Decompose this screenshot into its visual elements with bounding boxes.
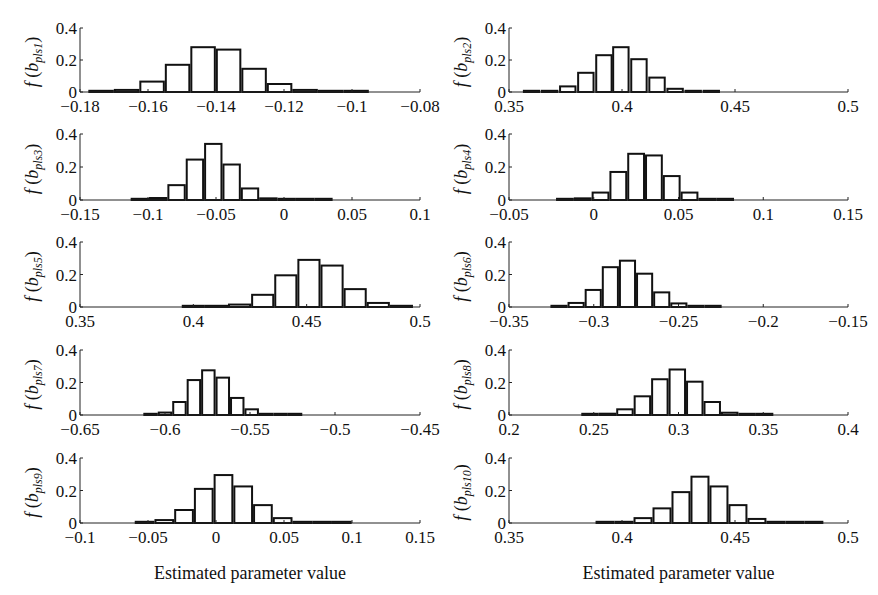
y-tick-label: 0.4	[485, 449, 507, 468]
histogram-bar	[635, 396, 650, 415]
histogram-bar	[217, 378, 229, 415]
x-tick-label: −0.5	[320, 420, 351, 439]
histogram-bar	[242, 69, 266, 92]
x-tick-label: 0.45	[292, 312, 322, 331]
histogram-bar	[603, 267, 618, 307]
x-tick-label: 0.05	[337, 205, 367, 224]
x-tick-label: 0.15	[833, 205, 863, 224]
y-axis-label: f (bpls10)	[451, 464, 474, 521]
histogram-bar	[202, 370, 214, 415]
y-axis-label: f (bpls4)	[451, 144, 474, 195]
histogram-bar	[610, 172, 626, 200]
x-tick-label: −0.65	[60, 420, 99, 439]
histogram-bar	[672, 492, 689, 523]
y-axis-label: f (bpls6)	[451, 251, 474, 302]
histogram-bar	[569, 303, 584, 307]
x-tick-label: 0.5	[837, 528, 858, 547]
x-tick-label: 0.35	[494, 97, 524, 116]
x-tick-label: −0.05	[196, 205, 235, 224]
histogram-bar	[234, 486, 252, 523]
histogram-bar	[254, 505, 272, 523]
histogram-bar	[682, 193, 698, 200]
y-tick-label: 0.2	[485, 374, 506, 393]
histogram-bar	[188, 380, 200, 415]
histogram-bar	[613, 47, 628, 92]
x-tick-label: 0.05	[664, 205, 694, 224]
histogram-bar	[252, 295, 273, 307]
y-tick-label: 0.2	[56, 266, 77, 285]
histogram-panel-4: 00.20.4−0.0500.050.10.15f (bpls4)	[451, 125, 863, 224]
histogram-bar	[140, 82, 164, 92]
histogram-bar	[205, 144, 221, 200]
y-axis-label: f (bpls7)	[22, 359, 45, 410]
histogram-bar	[560, 86, 575, 92]
histogram-panel-2: 00.20.40.350.40.450.5f (bpls2)	[451, 19, 859, 116]
x-tick-label: 0.35	[748, 420, 778, 439]
x-tick-label: 0.2	[498, 420, 519, 439]
y-tick-label: 0.2	[56, 482, 77, 501]
y-tick-label: 0.4	[56, 449, 78, 468]
histogram-bar	[578, 73, 593, 92]
histogram-panel-5: 00.20.40.350.40.450.5f (bpls5)	[22, 233, 431, 331]
y-axis-label: f (bpls5)	[22, 251, 45, 302]
histogram-bar	[687, 382, 702, 415]
y-tick-label: 0.2	[485, 51, 506, 70]
x-tick-label: −0.6	[150, 420, 181, 439]
histogram-bar	[321, 266, 342, 307]
x-tick-label: 0.5	[837, 97, 858, 116]
x-tick-label: −0.35	[489, 312, 528, 331]
histogram-bar	[637, 274, 652, 307]
y-tick-label: 0.4	[56, 341, 78, 360]
x-tick-label: 0.45	[720, 97, 750, 116]
histogram-bar	[748, 519, 765, 523]
y-tick-label: 0.4	[485, 233, 507, 252]
x-tick-label: −0.05	[489, 205, 528, 224]
y-tick-label: 0.2	[56, 374, 77, 393]
histogram-bar	[268, 84, 292, 92]
histogram-panel-10: 00.20.40.350.40.450.5f (bpls10)Estimated…	[451, 449, 859, 583]
x-tick-label: −0.45	[400, 420, 439, 439]
x-tick-label: 0	[280, 205, 289, 224]
y-tick-label: 0.2	[485, 482, 506, 501]
histogram-bar	[631, 59, 646, 92]
y-tick-label: 0.2	[485, 266, 506, 285]
histogram-bar	[628, 154, 644, 200]
histogram-bar	[729, 505, 746, 523]
histogram-bar	[635, 518, 652, 523]
histogram-panel-6: 00.20.4−0.35−0.3−0.25−0.2−0.15f (bpls6)	[451, 233, 868, 331]
x-tick-label: 0.45	[720, 528, 750, 547]
x-tick-label: 0.1	[341, 528, 362, 547]
x-tick-label: −0.15	[60, 205, 99, 224]
x-tick-label: 0.05	[269, 528, 299, 547]
histogram-bar	[654, 508, 671, 523]
histogram-bar	[298, 260, 319, 307]
histogram-figure: 00.20.4−0.18−0.16−0.14−0.12−0.1−0.08f (b…	[0, 0, 878, 595]
histogram-bar	[710, 486, 727, 523]
histogram-bar	[275, 275, 296, 307]
y-tick-label: 0.2	[485, 158, 506, 177]
x-tick-label: 0.1	[409, 205, 430, 224]
y-tick-label: 0.2	[56, 51, 77, 70]
x-tick-label: 0.5	[409, 312, 430, 331]
x-tick-label: 0.4	[837, 420, 859, 439]
histogram-bar	[245, 409, 257, 415]
x-tick-label: −0.08	[400, 97, 439, 116]
histogram-bar	[670, 370, 685, 416]
y-axis-label: f (bpls9)	[22, 467, 45, 518]
x-tick-label: −0.14	[196, 97, 236, 116]
x-tick-label: 0.25	[579, 420, 609, 439]
y-tick-label: 0.4	[56, 125, 78, 144]
x-tick-label: −0.1	[337, 97, 368, 116]
x-tick-label: 0.1	[753, 205, 774, 224]
x-tick-label: −0.18	[60, 97, 99, 116]
x-tick-label: −0.1	[65, 528, 96, 547]
x-tick-label: −0.05	[128, 528, 167, 547]
histogram-bar	[187, 160, 203, 200]
histogram-bar	[166, 65, 190, 92]
x-tick-label: −0.2	[748, 312, 779, 331]
x-tick-label: −0.16	[128, 97, 167, 116]
histogram-panel-9: 00.20.4−0.1−0.0500.050.10.15f (bpls9)Est…	[22, 449, 435, 583]
x-tick-label: 0	[590, 205, 599, 224]
y-tick-label: 0.4	[56, 19, 78, 38]
x-tick-label: −0.25	[659, 312, 698, 331]
